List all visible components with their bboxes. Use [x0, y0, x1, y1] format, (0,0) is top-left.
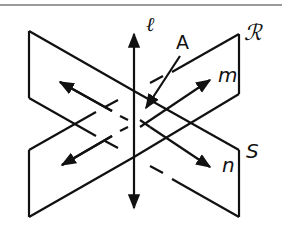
- label-line-m: m: [218, 65, 237, 85]
- label-point-a: A: [176, 33, 189, 52]
- label-line-n: n: [222, 155, 235, 175]
- planes-diagram: [0, 0, 282, 234]
- label-plane-r: ℛ: [244, 22, 262, 44]
- label-line-l: ℓ: [146, 14, 154, 34]
- label-plane-s: S: [246, 141, 259, 161]
- line-n: [62, 120, 210, 167]
